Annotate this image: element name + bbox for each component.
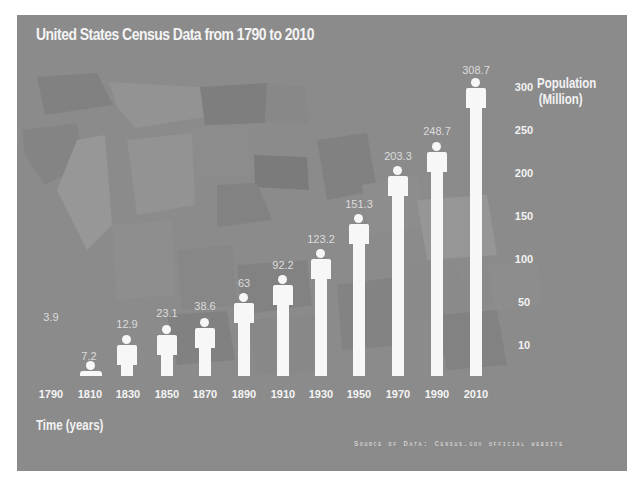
x-tick-1890: 1890 [224,388,264,400]
chart-panel: United States Census Data from 1790 to 2… [17,15,627,471]
bar-1850 [157,325,177,376]
x-tick-1870: 1870 [185,388,225,400]
person-head-icon [354,214,363,223]
bar-fill [392,196,404,376]
value-label-1830: 12.9 [102,318,152,330]
bar-fill [199,348,211,376]
bar-1890 [234,293,254,376]
bar-1830 [117,335,137,376]
bar-fill [121,365,133,376]
person-base-icon [80,371,102,376]
bar-1810 [80,361,102,376]
person-head-icon [471,78,480,87]
chart-title: United States Census Data from 1790 to 2… [36,25,314,45]
value-label-1930: 123.2 [296,233,346,245]
y-axis-label: Population (Million) [537,75,596,107]
bar-1950 [349,214,369,376]
x-tick-1930: 1930 [301,388,341,400]
value-label-1910: 92.2 [258,259,308,271]
value-label-1950: 151.3 [334,198,384,210]
bar-1910 [273,275,293,376]
bar-fill [431,172,443,376]
person-head-icon [239,293,248,302]
x-tick-1950: 1950 [339,388,379,400]
person-head-icon [86,361,95,370]
x-tick-1850: 1850 [147,388,187,400]
x-tick-1810: 1810 [70,388,110,400]
x-axis-label: Time (years) [36,417,103,433]
person-head-icon [162,325,171,334]
value-label-1790: 3.9 [26,311,76,323]
person-head-icon [316,249,325,258]
person-head-icon [278,275,287,284]
bar-1990 [427,142,447,376]
person-torso-icon [117,345,137,365]
person-torso-icon [234,303,254,323]
y-axis-label-line2: (Million) [537,91,596,107]
source-note: Source of Data: Census.gov official webs… [354,440,564,448]
value-label-2010: 308.7 [451,64,501,76]
bar-fill [315,279,327,376]
bar-1970 [388,166,408,376]
person-torso-icon [427,152,447,172]
value-label-1890: 63 [219,277,269,289]
x-tick-1790: 1790 [31,388,71,400]
person-torso-icon [273,285,293,305]
bar-fill [238,323,250,376]
bar-fill [353,244,365,376]
person-torso-icon [466,88,486,108]
x-tick-2010: 2010 [456,388,496,400]
person-torso-icon [388,176,408,196]
y-tick: 250 [509,124,539,136]
x-tick-1990: 1990 [417,388,457,400]
person-torso-icon [311,259,331,279]
person-torso-icon [349,224,369,244]
person-head-icon [200,318,209,327]
person-torso-icon [195,328,215,348]
y-tick: 200 [509,167,539,179]
value-label-1970: 203.3 [373,150,423,162]
person-head-icon [122,335,131,344]
x-tick-1910: 1910 [263,388,303,400]
person-torso-icon [157,335,177,355]
y-tick: 50 [509,296,539,308]
bar-1930 [311,249,331,376]
person-head-icon [393,166,402,175]
y-tick: 150 [509,210,539,222]
bar-fill [161,355,173,376]
value-label-1990: 248.7 [412,125,462,137]
y-axis-label-line1: Population [537,75,596,91]
value-label-1870: 38.6 [180,300,230,312]
y-tick: 300 [509,81,539,93]
bar-fill [470,108,482,376]
x-tick-1970: 1970 [378,388,418,400]
bar-2010 [466,78,486,376]
y-tick: 100 [509,253,539,265]
bar-fill [277,305,289,376]
person-head-icon [432,142,441,151]
bar-1870 [195,318,215,376]
y-tick: 10 [509,339,539,351]
x-tick-1830: 1830 [108,388,148,400]
